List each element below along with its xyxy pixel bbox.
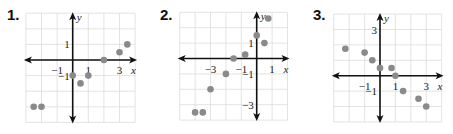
data-point	[400, 88, 407, 95]
y-tick-label: −1	[365, 85, 377, 97]
x-axis-label: x	[437, 80, 443, 92]
data-point	[392, 72, 399, 79]
data-point	[361, 49, 368, 56]
x-tick-label: 3	[423, 80, 429, 92]
data-point	[377, 65, 384, 72]
scatter-plot-3: xy−1133−1	[0, 0, 453, 134]
data-point	[369, 57, 376, 64]
data-point	[388, 65, 395, 72]
data-points	[342, 45, 429, 109]
scatter-panel-3: 3. xy−1133−1	[0, 0, 453, 134]
data-point	[415, 96, 422, 103]
y-tick-label: 3	[372, 24, 378, 36]
y-axis-label: y	[383, 12, 389, 24]
data-point	[342, 45, 349, 52]
x-tick-label: 1	[393, 80, 399, 92]
data-point	[423, 103, 430, 110]
